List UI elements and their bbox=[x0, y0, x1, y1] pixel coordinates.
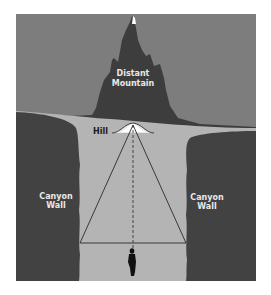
right-canyon-wall-label-line2: Wall bbox=[197, 202, 217, 211]
distant-mountain-label-line1: Distant bbox=[117, 69, 150, 78]
hill-label: Hill bbox=[93, 127, 108, 136]
right-canyon-wall-label-line1: Canyon bbox=[190, 193, 224, 202]
distant-mountain-label-line2: Mountain bbox=[112, 79, 155, 88]
left-canyon-wall-label-line2: Wall bbox=[46, 201, 66, 210]
canyon-sightline-diagram: Distant Mountain Hill Canyon Wall Canyon… bbox=[0, 0, 271, 295]
left-canyon-wall-label-line1: Canyon bbox=[39, 192, 73, 201]
